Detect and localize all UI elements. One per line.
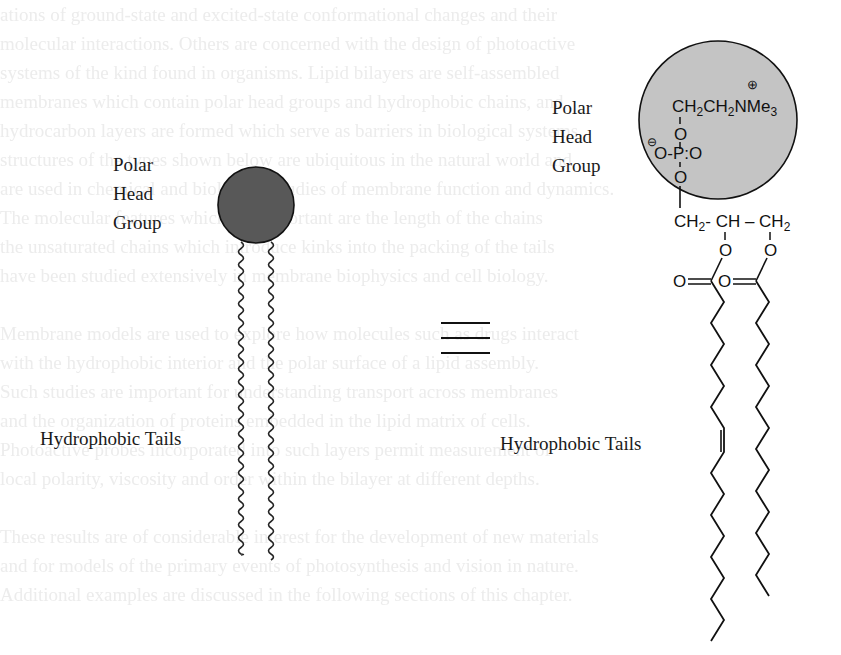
phosphate-group: O-P:O: [654, 144, 702, 163]
oxygen-top: O: [674, 125, 687, 144]
left-tail-1-wavy: [239, 242, 244, 555]
glycerol-backbone: CH2- CH – CH2: [674, 212, 791, 234]
left-polar-head-circle: [218, 167, 294, 243]
carbonyl-oxygen-2: O: [718, 272, 731, 291]
unsaturated-fatty-acid-chain: [711, 281, 724, 641]
carbonyl-oxygen-1: O: [673, 272, 686, 291]
left-tail-2-wavy: [269, 242, 274, 560]
choline-group: CH2CH2NMe3: [672, 97, 777, 119]
left-schematic-lipid: [218, 167, 294, 560]
ester-oxygen-1: O: [719, 241, 732, 260]
phospholipid-diagram: ations of ground-state and excited-state…: [0, 0, 841, 655]
saturated-fatty-acid-chain: [756, 281, 769, 596]
right-polar-head-circle: [639, 41, 797, 199]
diagram-svg: CH2CH2NMe3 ⊕ O ⊖ O-P:O O CH2- CH – CH2 O…: [0, 0, 841, 655]
oxygen-bottom: O: [674, 168, 687, 187]
equivalence-symbol: [441, 323, 490, 353]
right-phosphatidylcholine-structure: CH2CH2NMe3 ⊕ O ⊖ O-P:O O CH2- CH – CH2 O…: [639, 41, 797, 641]
ester-oxygen-2: O: [764, 241, 777, 260]
choline-positive-charge: ⊕: [747, 77, 758, 92]
